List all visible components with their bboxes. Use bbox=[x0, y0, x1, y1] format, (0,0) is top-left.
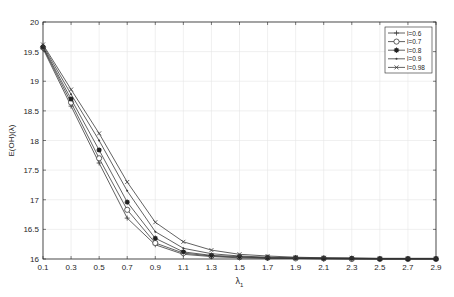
x-tick-label: 0.9 bbox=[150, 263, 162, 272]
y-tick-label: 16 bbox=[30, 255, 39, 264]
legend-label: l=0.7 bbox=[407, 38, 422, 45]
legend-label: l=0.98 bbox=[407, 64, 425, 71]
y-axis-label: E(OH)(λ) bbox=[7, 124, 16, 156]
y-tick-label: 20 bbox=[30, 18, 39, 27]
y-tick-label: 19.5 bbox=[23, 48, 39, 57]
grid bbox=[43, 22, 436, 259]
x-tick-label: 0.7 bbox=[122, 263, 134, 272]
x-tick-label: 1.7 bbox=[262, 263, 274, 272]
legend-label: l=0.8 bbox=[407, 47, 422, 54]
x-tick-label: 2.9 bbox=[430, 263, 442, 272]
x-tick-label: 1.1 bbox=[178, 263, 190, 272]
y-tick-label: 18.5 bbox=[23, 107, 39, 116]
line-chart: 0.10.30.50.70.91.11.31.51.71.92.12.32.52… bbox=[0, 0, 454, 297]
x-tick-label: 0.5 bbox=[94, 263, 106, 272]
y-tick-label: 17 bbox=[30, 196, 39, 205]
x-tick-label: 1.9 bbox=[290, 263, 302, 272]
legend-label: l=0.9 bbox=[407, 55, 422, 62]
y-tick-label: 19 bbox=[30, 77, 39, 86]
legend: l=0.6l=0.7l=0.8l=0.9l=0.98 bbox=[385, 27, 432, 73]
x-tick-label: 0.3 bbox=[66, 263, 78, 272]
x-tick-label: 0.1 bbox=[37, 263, 49, 272]
x-tick-label: 2.1 bbox=[318, 263, 330, 272]
y-tick-label: 17.5 bbox=[23, 166, 39, 175]
y-tick-label: 18 bbox=[30, 137, 39, 146]
x-axis-label: λ1 bbox=[236, 276, 245, 288]
legend-label: l=0.6 bbox=[407, 30, 422, 37]
axes: 0.10.30.50.70.91.11.31.51.71.92.12.32.52… bbox=[7, 18, 442, 288]
x-tick-label: 1.5 bbox=[234, 263, 246, 272]
x-tick-label: 2.5 bbox=[374, 263, 386, 272]
x-tick-label: 1.3 bbox=[206, 263, 218, 272]
y-tick-label: 16.5 bbox=[23, 225, 39, 234]
x-tick-label: 2.7 bbox=[402, 263, 414, 272]
x-tick-label: 2.3 bbox=[346, 263, 358, 272]
